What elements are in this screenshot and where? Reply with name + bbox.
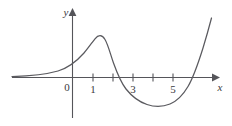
coordinate-plane: 0 1 3 5 y x bbox=[0, 0, 232, 126]
x-tick-label-3: 3 bbox=[130, 83, 136, 95]
y-axis-arrow-icon bbox=[69, 8, 77, 16]
x-tick-label-5: 5 bbox=[170, 83, 176, 95]
x-axis-label: x bbox=[217, 81, 223, 93]
y-axis-label: y bbox=[63, 6, 69, 18]
function-curve bbox=[12, 18, 212, 106]
graph-figure: 0 1 3 5 y x bbox=[0, 0, 232, 126]
origin-label: 0 bbox=[64, 81, 70, 93]
x-tick-label-1: 1 bbox=[90, 83, 96, 95]
